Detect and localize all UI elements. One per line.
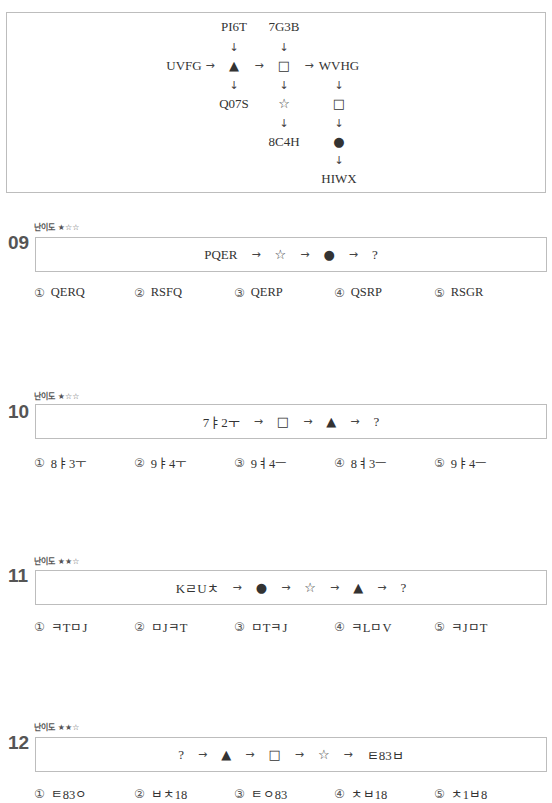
option-text: ㅌ83ㅇ [51,784,88,803]
option-marker: ① [34,787,45,801]
star-output-label: 8C4H [254,134,314,150]
arrow-right-icon: → [254,415,263,428]
option-marker: ① [34,620,45,634]
arrow-right-icon: → [349,248,358,261]
arrow-right-icon: → [295,748,304,761]
triangle-icon: ▲ [326,414,336,429]
arrow-right-icon: → [251,248,260,261]
question-sequence-box: PQER → ☆ → ● → ? [35,237,547,272]
square-icon: □ [309,96,369,112]
arrow-right-icon: → [377,581,386,594]
arrow-down-icon: ↓ [254,116,314,132]
difficulty-label: 난이도 [34,557,55,566]
square-icon: □ [268,747,280,762]
arrow-down-icon: ↓ [309,116,369,132]
triangle-icon: ▲ [353,580,363,595]
option-text: ㅊ1ㅂ8 [451,784,488,803]
option-2[interactable]: ②ㅂㅊ18 [134,784,234,803]
star-icon: ☆ [304,580,316,595]
question-sequence-box: ? → ▲ → □ → ☆ → ㅌ83ㅂ [35,737,547,772]
option-4[interactable]: ④8ㅕ3ㅡ [334,453,434,472]
arrow-right-icon: → [344,748,353,761]
question-number: 09 [8,232,29,254]
option-text: 9ㅕ4ㅡ [251,453,288,472]
star-icon: ☆ [275,247,287,262]
option-1[interactable]: ①ㅌ83ㅇ [34,784,134,803]
option-text: ㅂㅊ18 [151,784,188,803]
circle-icon: ● [256,580,267,595]
arrow-right-icon: → [350,415,359,428]
option-2[interactable]: ②ㅁJㅋT [134,617,234,636]
option-3[interactable]: ③ㅁTㅋJ [234,617,334,636]
difficulty-label: 난이도 [34,223,55,232]
option-5[interactable]: ⑤RSGR [434,285,534,300]
option-text: ㅋLㅁV [351,617,392,636]
option-marker: ③ [234,456,245,470]
difficulty-stars-icon: ★★☆ [58,723,80,732]
difficulty-stars-icon: ★★☆ [58,557,80,566]
difficulty-indicator: 난이도 ★☆☆ [34,390,79,401]
option-4[interactable]: ④QSRP [334,285,434,300]
option-1[interactable]: ①ㅋTㅁJ [34,617,134,636]
option-5[interactable]: ⑤ㅋJㅁT [434,617,534,636]
option-text: RSFQ [151,285,182,300]
option-marker: ③ [234,286,245,300]
option-text: ㅋJㅁT [451,617,488,636]
question-number: 11 [8,565,28,587]
option-1[interactable]: ①8ㅑ3ㅜ [34,453,134,472]
option-4[interactable]: ④ㅊㅂ18 [334,784,434,803]
difficulty-indicator: 난이도 ★★☆ [34,555,79,566]
option-5[interactable]: ⑤9ㅑ4ㅡ [434,453,534,472]
option-marker: ① [34,456,45,470]
answer-options: ①QERQ ②RSFQ ③QERP ④QSRP ⑤RSGR [34,285,534,300]
option-3[interactable]: ③9ㅕ4ㅡ [234,453,334,472]
arrow-right-icon: → [245,748,254,761]
arrow-right-icon: → [300,248,309,261]
unknown-value: ? [400,580,406,596]
option-text: RSGR [451,285,484,300]
question-number: 10 [8,401,29,423]
input-value: KㄹUㅊ [176,578,219,597]
option-marker: ③ [234,787,245,801]
option-text: ㅁJㅋT [151,617,188,636]
option-text: ㅁTㅋJ [251,617,288,636]
unknown-value: ? [372,247,378,263]
difficulty-stars-icon: ★☆☆ [58,392,80,401]
input-value: 7ㅑ2ㅜ [203,412,240,431]
input-value: PQER [204,247,237,263]
option-2[interactable]: ②RSFQ [134,285,234,300]
answer-options: ①ㅌ83ㅇ ②ㅂㅊ18 ③ㅌㅇ83 ④ㅊㅂ18 ⑤ㅊ1ㅂ8 [34,784,534,803]
option-marker: ④ [334,620,345,634]
unknown-value: ? [374,414,380,430]
option-marker: ④ [334,456,345,470]
option-text: QERP [251,285,283,300]
option-text: QSRP [351,285,382,300]
option-4[interactable]: ④ㅋLㅁV [334,617,434,636]
option-3[interactable]: ③QERP [234,285,334,300]
circle-icon: ● [323,247,334,262]
option-text: 8ㅕ3ㅡ [351,453,388,472]
option-text: 9ㅑ4ㅜ [151,453,188,472]
star-icon: ☆ [254,96,314,112]
option-5[interactable]: ⑤ㅊ1ㅂ8 [434,784,534,803]
circle-output-label: HIWX [309,171,369,187]
question-number: 12 [8,732,29,754]
arrow-down-icon: ↓ [309,153,369,169]
end-label: WVHG [309,58,369,74]
output-value: ㅌ83ㅂ [367,745,404,764]
arrow-down-icon: ↓ [309,78,369,94]
arrow-right-icon: → [198,748,207,761]
arrow-right-icon: → [303,415,312,428]
option-1[interactable]: ①QERQ [34,285,134,300]
option-text: 9ㅑ4ㅡ [451,453,488,472]
square-input-label: 7G3B [254,19,314,35]
option-3[interactable]: ③ㅌㅇ83 [234,784,334,803]
option-text: 8ㅑ3ㅜ [51,453,88,472]
arrow-right-icon: → [281,581,290,594]
arrow-down-icon: ↓ [254,78,314,94]
option-marker: ⑤ [434,620,445,634]
arrow-right-icon: → [233,581,242,594]
option-marker: ③ [234,620,245,634]
option-2[interactable]: ②9ㅑ4ㅜ [134,453,234,472]
triangle-icon: ▲ [221,747,231,762]
